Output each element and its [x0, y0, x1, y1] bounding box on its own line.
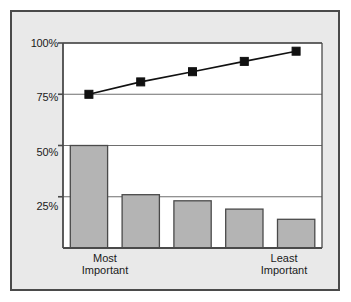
bar-1	[70, 146, 107, 249]
x-axis-label-least-important-line2: Important	[242, 264, 326, 276]
y-tick-label-50: 50%	[14, 146, 58, 158]
x-axis-label-least-important-line1: Least	[242, 252, 326, 264]
marker-1	[85, 90, 93, 98]
marker-5	[292, 47, 300, 55]
y-tick-label-75: 75%	[14, 91, 58, 103]
marker-2	[137, 78, 145, 86]
x-axis-label-most-important-line2: Important	[63, 264, 147, 276]
x-axis-label-least-important: Least Important	[242, 252, 326, 276]
bar-5	[278, 219, 315, 248]
x-axis-label-most-important-line1: Most	[63, 252, 147, 264]
y-tick-label-25: 25%	[14, 200, 58, 212]
bar-3	[174, 201, 211, 248]
marker-4	[240, 57, 248, 65]
y-tick-label-100: 100%	[14, 37, 58, 49]
bar-2	[122, 195, 159, 248]
bar-4	[226, 209, 263, 248]
marker-3	[189, 68, 197, 76]
x-axis-label-most-important: Most Important	[63, 252, 147, 276]
